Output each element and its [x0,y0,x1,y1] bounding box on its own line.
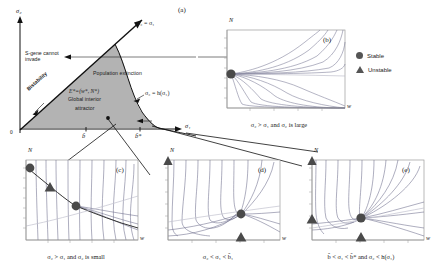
panel-d-caption: σ₂ < σ₁ < b̃₁ [148,253,288,260]
panel-e-y-axis-label: N [314,146,318,153]
panel-d-stable-equilibrium [237,210,246,219]
legend-label-unstable: Unstable [368,67,392,73]
legend-row-unstable: Unstable [356,66,432,73]
panel-c-stable-interior-equilibrium [72,202,81,211]
panel-c-caption: σ₂ > σ₁ and σ₂ is small [6,253,146,260]
panel-e: N w (e) b̃ < σ₁ < b̃* and σ₂ < h(σ₁) [290,152,432,274]
filled-circle-icon [356,52,363,59]
panel-b-tag: (b) [323,36,331,44]
panel-e-x-axis-label: w [426,234,430,241]
connector-to-e2 [186,133,318,152]
panel-b-x-axis-label: w [347,102,351,109]
figure-root: σ₂ σ₁ 0 (a) σ₂ = σ₁ σ₂ = h(σ₁) S-gene ca… [0,0,433,277]
panel-c-stable-boundary-equilibrium [26,164,35,173]
panel-d-tag: (d) [258,166,266,174]
panel-d: N w (d) σ₂ < σ₁ < b̃₁ [148,152,288,274]
filled-triangle-icon [356,66,364,73]
panel-c-y-axis-label: N [28,146,32,153]
panel-e-tag: (e) [402,166,410,174]
panel-e-caption: b̃ < σ₁ < b̃* and σ₂ < h(σ₁) [290,253,432,260]
panel-e-stable-equilibrium [356,213,365,222]
panel-b-stable-equilibrium [226,69,235,78]
panel-b-caption: σ₂ > σ₁ and σ₂ is large [205,121,353,128]
panel-b: N w (b) σ₂ > σ₁ and σ₂ is large [205,22,353,134]
panel-c: N w (c) σ₂ > σ₁ and σ₂ is small [6,152,146,274]
panel-d-x-axis-label: w [282,234,286,241]
panel-c-tag: (c) [116,166,124,174]
legend: Stable Unstable [356,52,432,80]
panel-b-y-axis-label: N [229,16,233,23]
legend-label-stable: Stable [367,53,384,59]
legend-row-stable: Stable [356,52,432,59]
panel-d-y-axis-label: N [170,146,174,153]
panel-c-x-axis-label: w [140,234,144,241]
